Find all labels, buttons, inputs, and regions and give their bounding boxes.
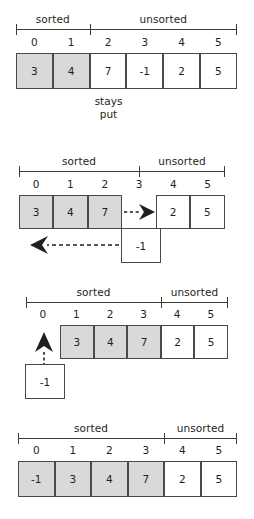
panel-2-index-5: 5 bbox=[191, 178, 225, 190]
array-cell: 2 bbox=[164, 461, 201, 497]
panel-2-tick-start bbox=[19, 166, 20, 177]
panel-2-tick-end bbox=[224, 166, 225, 177]
panel-3-index-3: 3 bbox=[127, 308, 161, 320]
panel-4-index-1: 1 bbox=[55, 444, 92, 456]
panel-4-index-5: 5 bbox=[201, 444, 238, 456]
panel-3-tick-start bbox=[26, 297, 27, 308]
panel-4-array: -1 3 4 7 2 5 bbox=[18, 461, 237, 497]
stays-put-line-1: stays bbox=[60, 95, 157, 108]
panel-4-index-3: 3 bbox=[128, 444, 165, 456]
array-cell: -1 bbox=[18, 461, 55, 497]
array-cell: 2 bbox=[163, 53, 200, 89]
stays-put-annotation: stays put bbox=[60, 95, 157, 120]
array-cell: 7 bbox=[128, 461, 165, 497]
array-cell: 4 bbox=[91, 461, 128, 497]
panel-1-array: 3 4 7 -1 2 5 bbox=[16, 53, 237, 89]
panel-2-index-4: 4 bbox=[156, 178, 190, 190]
panel-1-tick-divider bbox=[90, 24, 91, 35]
array-cell: 4 bbox=[53, 53, 90, 89]
array-cell: -1 bbox=[126, 53, 163, 89]
array-cell: 3 bbox=[16, 53, 53, 89]
array-cell: 5 bbox=[200, 53, 237, 89]
panel-1-indices: 0 1 2 3 4 5 bbox=[16, 36, 237, 51]
panel-2-bracket-line bbox=[19, 171, 225, 172]
panel-3-index-2: 2 bbox=[93, 308, 127, 320]
panel-3-tick-divider bbox=[161, 297, 162, 308]
panel-4-sorted-label: sorted bbox=[18, 422, 164, 434]
panel-2-tick-divider bbox=[139, 166, 140, 177]
panel-4-tick-start bbox=[18, 433, 19, 444]
panel-3-bracket-line bbox=[26, 302, 228, 303]
panel-4-index-0: 0 bbox=[18, 444, 55, 456]
panel-2-index-1: 1 bbox=[53, 178, 87, 190]
panel-1-index-1: 1 bbox=[53, 36, 90, 48]
panel-1-bracket-line bbox=[16, 29, 237, 30]
panel-3-index-5: 5 bbox=[194, 308, 228, 320]
panel-2-carry-arrow bbox=[0, 228, 254, 268]
panel-1-tick-start bbox=[16, 24, 17, 35]
panel-2-unsorted-label: unsorted bbox=[139, 155, 225, 167]
panel-4-index-4: 4 bbox=[164, 444, 201, 456]
panel-2-index-0: 0 bbox=[19, 178, 53, 190]
panel-1-index-2: 2 bbox=[90, 36, 127, 48]
panel-1-index-0: 0 bbox=[16, 36, 53, 48]
panel-3-unsorted-label: unsorted bbox=[161, 286, 228, 298]
held-value-box: -1 bbox=[25, 364, 65, 399]
panel-2-sorted-label: sorted bbox=[19, 155, 139, 167]
panel-1-index-3: 3 bbox=[126, 36, 163, 48]
panel-2-index-2: 2 bbox=[88, 178, 122, 190]
panel-4-tick-end bbox=[236, 433, 237, 444]
panel-4-tick-divider bbox=[164, 433, 165, 444]
panel-3-sorted-label: sorted bbox=[26, 286, 161, 298]
array-cell: 3 bbox=[55, 461, 92, 497]
panel-3-index-0: 0 bbox=[26, 308, 60, 320]
panel-1-tick-end bbox=[236, 24, 237, 35]
panel-4-index-2: 2 bbox=[91, 444, 128, 456]
panel-1-index-4: 4 bbox=[163, 36, 200, 48]
panel-4-indices: 0 1 2 3 4 5 bbox=[18, 444, 237, 459]
panel-4-bracket-line bbox=[18, 438, 237, 439]
array-cell: 7 bbox=[90, 53, 127, 89]
stays-put-line-2: put bbox=[60, 108, 157, 121]
panel-3-tick-end bbox=[227, 297, 228, 308]
panel-3-index-1: 1 bbox=[60, 308, 94, 320]
array-cell: 5 bbox=[201, 461, 238, 497]
panel-1-unsorted-label: unsorted bbox=[90, 13, 237, 25]
panel-3-indices: 0 1 2 3 4 5 bbox=[26, 308, 228, 323]
panel-2-index-3: 3 bbox=[122, 178, 156, 190]
panel-1-index-5: 5 bbox=[200, 36, 237, 48]
panel-2-indices: 0 1 2 3 4 5 bbox=[19, 178, 225, 193]
panel-4-unsorted-label: unsorted bbox=[164, 422, 237, 434]
panel-1-sorted-label: sorted bbox=[16, 13, 90, 25]
panel-3-index-4: 4 bbox=[160, 308, 194, 320]
